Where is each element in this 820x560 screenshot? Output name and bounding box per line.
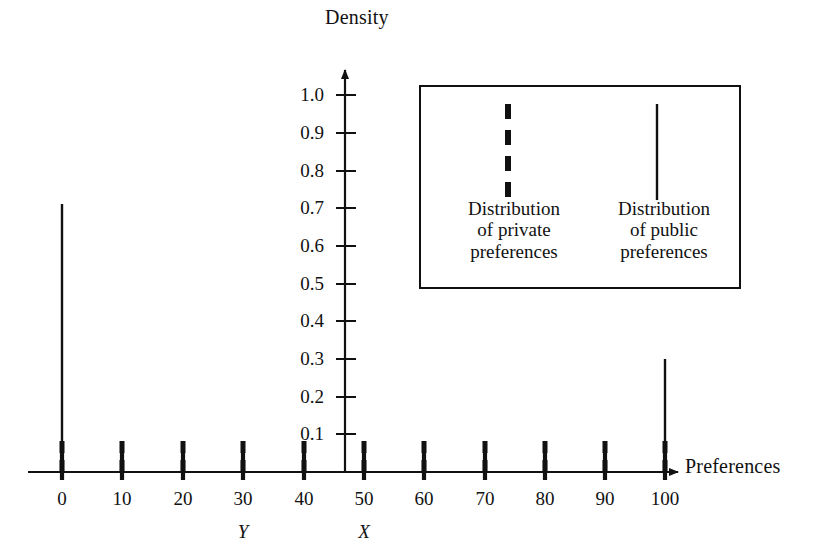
- x-tick-label: 30: [213, 488, 273, 510]
- y-tick-label: 0.7: [278, 197, 324, 219]
- x-tick-label: 90: [575, 488, 635, 510]
- x-tick-label: 20: [153, 488, 213, 510]
- marker-label-x: X: [344, 521, 384, 543]
- legend-label-private: Distribution of private preferences: [438, 198, 590, 262]
- y-tick-label: 0.3: [278, 348, 324, 370]
- marker-label-y: Y: [223, 521, 263, 543]
- x-tick-label: 100: [635, 488, 695, 510]
- y-tick-label: 0.4: [278, 310, 324, 332]
- x-tick-label: 10: [92, 488, 152, 510]
- x-tick-label: 60: [394, 488, 454, 510]
- x-axis-title: Preferences: [685, 455, 780, 478]
- y-tick-label: 0.6: [278, 235, 324, 257]
- y-tick-label: 0.1: [278, 423, 324, 445]
- x-tick-label: 40: [274, 488, 334, 510]
- y-axis-title: Density: [325, 6, 389, 29]
- y-tick-label: 0.5: [278, 273, 324, 295]
- y-tick-label: 0.8: [278, 160, 324, 182]
- y-tick-label: 0.2: [278, 386, 324, 408]
- chart-figure: Density Preferences 1.0 0.9 0.8 0.7 0.6 …: [0, 0, 820, 560]
- x-tick-label: 50: [334, 488, 394, 510]
- y-tick-label: 0.9: [278, 122, 324, 144]
- x-tick-label: 80: [515, 488, 575, 510]
- x-tick-label: 70: [455, 488, 515, 510]
- legend-label-public: Distribution of public preferences: [588, 198, 740, 262]
- x-tick-label: 0: [32, 488, 92, 510]
- y-tick-label: 1.0: [278, 84, 324, 106]
